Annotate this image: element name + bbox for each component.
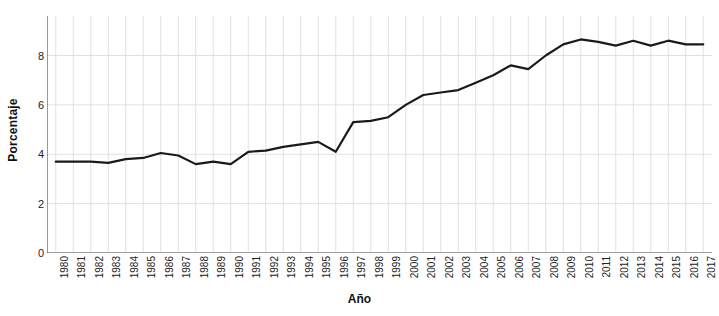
y-tick-label: 4 [26,149,44,160]
chart-canvas [47,16,712,253]
x-tick-label: 1993 [287,256,297,278]
y-tick-label: 6 [26,99,44,110]
x-tick-label: 2006 [515,256,525,278]
x-tick-label: 1988 [200,256,210,278]
x-axis-tick-labels: 1980198119821983198419851986198719881989… [47,256,712,292]
x-tick-label: 2007 [532,256,542,278]
x-tick-label: 2014 [655,256,665,278]
y-tick-label: 8 [26,50,44,61]
x-tick-label: 1992 [270,256,280,278]
x-tick-label: 1996 [340,256,350,278]
x-tick-label: 2011 [602,256,612,278]
x-tick-label: 2017 [707,256,717,278]
horizontal-gridlines [47,56,712,254]
x-tick-label: 1997 [357,256,367,278]
x-tick-label: 2005 [497,256,507,278]
x-tick-label: 1986 [165,256,175,278]
y-tick-label: 0 [26,248,44,259]
x-tick-label: 1980 [60,256,70,278]
x-tick-label: 1989 [217,256,227,278]
x-axis-title: Año [0,292,719,306]
x-tick-label: 1990 [235,256,245,278]
vertical-gridlines [56,16,704,253]
y-tick-label: 2 [26,198,44,209]
x-tick-label: 1985 [147,256,157,278]
x-axis-title-text: Año [348,292,371,306]
x-tick-label: 1982 [95,256,105,278]
x-tick-label: 2000 [410,256,420,278]
x-tick-label: 2002 [445,256,455,278]
x-tick-label: 1999 [392,256,402,278]
x-tick-label: 1995 [322,256,332,278]
x-tick-label: 2015 [672,256,682,278]
axis-spines [47,16,712,253]
x-tick-label: 1983 [112,256,122,278]
x-tick-label: 2009 [567,256,577,278]
x-tick-label: 2016 [690,256,700,278]
x-tick-label: 2008 [550,256,560,278]
x-tick-label: 2003 [462,256,472,278]
x-tick-label: 1981 [77,256,87,278]
x-tick-label: 2013 [637,256,647,278]
x-tick-label: 1998 [375,256,385,278]
y-axis-title-text: Porcentaje [6,98,20,161]
data-series-line [56,39,704,164]
plot-area [47,16,712,253]
y-axis-title: Porcentaje [2,0,24,260]
x-tick-label: 1984 [130,256,140,278]
chart-figure: Porcentaje 02468 19801981198219831984198… [0,0,719,316]
x-tick-label: 1994 [305,256,315,278]
y-axis-tick-labels: 02468 [22,16,44,253]
x-tick-label: 1991 [252,256,262,278]
x-tick-label: 1987 [182,256,192,278]
x-tick-label: 2004 [480,256,490,278]
x-tick-label: 2012 [620,256,630,278]
x-tick-label: 2010 [585,256,595,278]
x-tick-label: 2001 [427,256,437,278]
